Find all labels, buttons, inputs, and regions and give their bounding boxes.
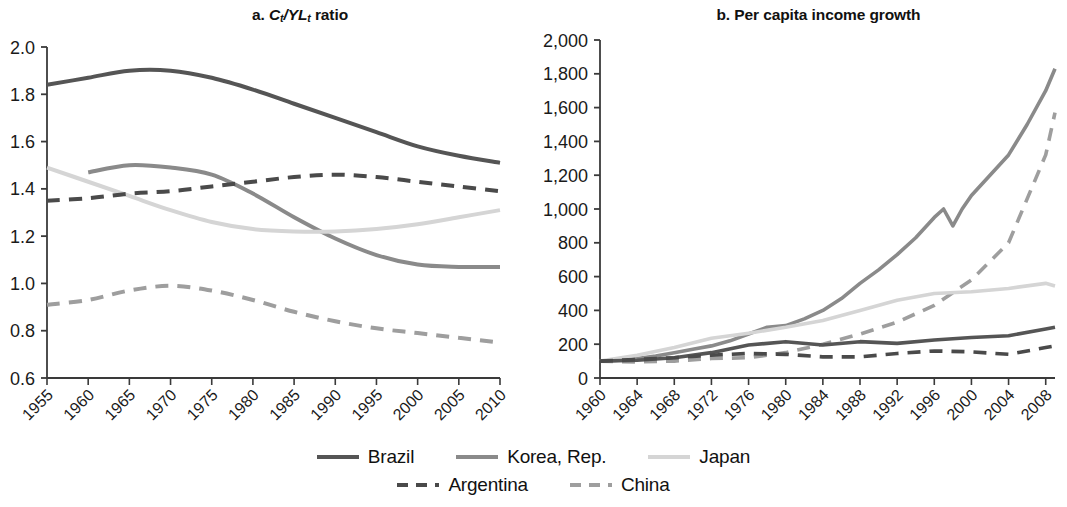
series-line-korea-rep: [88, 165, 500, 267]
legend-row-primary: BrazilKorea, Rep.Japan: [0, 447, 1067, 466]
legend: BrazilKorea, Rep.Japan ArgentinaChina: [0, 447, 1067, 507]
x-tick-label: 2008: [1018, 386, 1055, 423]
series-line-argentina: [47, 175, 500, 201]
panel-b: b. Per capita income growth 2,0001,8001,…: [510, 0, 1067, 450]
x-tick-label: 1995: [348, 386, 385, 423]
figure-container: a. Ct/YLt ratio 2.01.81.61.41.21.00.80.6…: [0, 0, 1067, 507]
x-tick-label: 1975: [184, 386, 221, 423]
x-tick-label: 1955: [19, 386, 56, 423]
y-tick-label: 200: [558, 335, 588, 355]
legend-item-korea[interactable]: Korea, Rep.: [456, 447, 606, 466]
y-tick-label: 1,200: [543, 166, 588, 186]
series-line-korea-rep: [600, 69, 1055, 361]
y-tick-label: 1,400: [543, 132, 588, 152]
x-tick-label: 1980: [758, 386, 795, 423]
x-tick-label: 2000: [943, 386, 980, 423]
y-tick-label: 800: [558, 233, 588, 253]
x-tick-label: 1992: [869, 386, 906, 423]
legend-item-argentina[interactable]: Argentina: [397, 475, 528, 494]
x-tick-label: 1970: [142, 386, 179, 423]
series-line-brazil: [47, 70, 500, 163]
x-tick-label: 1960: [60, 386, 97, 423]
legend-label-argentina: Argentina: [448, 475, 528, 494]
series-line-japan: [47, 168, 500, 232]
panel-b-plot: 2,0001,8001,6001,4001,2001,0008006004002…: [510, 0, 1067, 450]
legend-item-japan[interactable]: Japan: [648, 447, 750, 466]
series-line-china: [600, 113, 1055, 362]
legend-row-secondary: ArgentinaChina: [0, 475, 1067, 494]
x-tick-label: 2000: [390, 386, 427, 423]
legend-label-brazil: Brazil: [368, 447, 414, 466]
y-tick-label: 1.2: [10, 227, 35, 247]
series-line-china: [47, 286, 500, 343]
x-tick-label: 1968: [646, 386, 683, 423]
x-tick-label: 2004: [981, 386, 1018, 423]
y-tick-label: 400: [558, 301, 588, 321]
y-tick-label: 1,800: [543, 64, 588, 84]
series-line-japan: [600, 283, 1055, 361]
x-tick-label: 1976: [721, 386, 758, 423]
x-tick-label: 1985: [266, 386, 303, 423]
y-tick-label: 1.0: [10, 274, 35, 294]
y-tick-label: 1.8: [10, 85, 35, 105]
y-tick-label: 1,600: [543, 98, 588, 118]
legend-label-japan: Japan: [699, 447, 750, 466]
y-tick-label: 1,000: [543, 200, 588, 220]
x-tick-label: 2010: [472, 386, 509, 423]
y-tick-label: 1.4: [10, 179, 35, 199]
legend-item-china[interactable]: China: [570, 475, 670, 494]
x-tick-label: 1990: [307, 386, 344, 423]
x-tick-label: 1965: [101, 386, 138, 423]
x-tick-label: 1980: [225, 386, 262, 423]
y-tick-label: 600: [558, 267, 588, 287]
legend-label-china: China: [621, 475, 670, 494]
x-tick-label: 1972: [683, 386, 720, 423]
y-tick-label: 1.6: [10, 132, 35, 152]
panel-a: a. Ct/YLt ratio 2.01.81.61.41.21.00.80.6…: [0, 0, 520, 450]
panel-a-plot: 2.01.81.61.41.21.00.80.61955196019651970…: [0, 0, 520, 450]
y-tick-label: 0.8: [10, 321, 35, 341]
x-tick-label: 1960: [572, 386, 609, 423]
x-tick-label: 2005: [431, 386, 468, 423]
x-tick-label: 1984: [795, 386, 832, 423]
x-tick-label: 1996: [906, 386, 943, 423]
legend-label-korea: Korea, Rep.: [507, 447, 606, 466]
y-tick-label: 0.6: [10, 369, 35, 389]
legend-item-brazil[interactable]: Brazil: [317, 447, 414, 466]
x-tick-label: 1964: [609, 386, 646, 423]
y-tick-label: 0: [578, 369, 588, 389]
y-tick-label: 2.0: [10, 38, 35, 58]
x-tick-label: 1988: [832, 386, 869, 423]
y-tick-label: 2,000: [543, 31, 588, 51]
